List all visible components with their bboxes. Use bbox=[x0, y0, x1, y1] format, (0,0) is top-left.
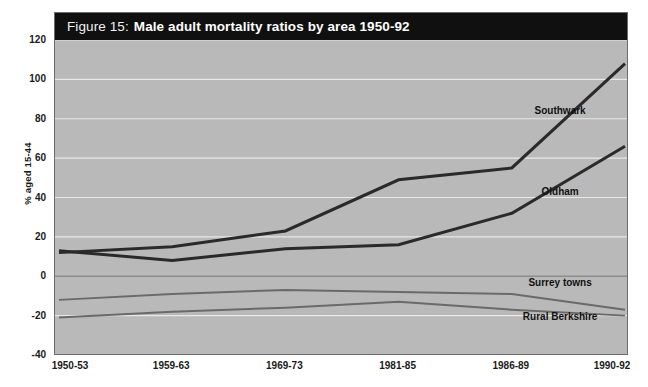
series-label-surrey-towns: Surrey towns bbox=[528, 277, 591, 288]
series-line-surrey-towns bbox=[59, 290, 625, 310]
plot-inner bbox=[55, 13, 627, 354]
x-tick-label: 1950-53 bbox=[52, 360, 89, 371]
series-label-oldham: Oldham bbox=[541, 186, 578, 197]
plot-area: SouthwarkOldhamSurrey townsRural Berkshi… bbox=[54, 12, 628, 355]
chart-svg bbox=[55, 13, 628, 355]
x-tick-label: 1969-73 bbox=[266, 360, 303, 371]
figure-title: Male adult mortality ratios by area 1950… bbox=[134, 19, 410, 34]
x-tick-label: 1990-92 bbox=[594, 360, 631, 371]
series-label-southwark: Southwark bbox=[535, 105, 586, 116]
x-tick-label: 1959-63 bbox=[153, 360, 190, 371]
figure-container: % aged 15-44 -40-20020406080100120 1950-… bbox=[0, 0, 648, 387]
series-line-oldham bbox=[59, 146, 625, 260]
x-tick-label: 1986-89 bbox=[492, 360, 529, 371]
x-tick-label: 1981-85 bbox=[379, 360, 416, 371]
figure-title-band: Figure 15: Male adult mortality ratios b… bbox=[55, 13, 627, 40]
figure-number: Figure 15: bbox=[67, 19, 129, 34]
series-label-rural-berkshire: Rural Berkshire bbox=[523, 310, 597, 321]
